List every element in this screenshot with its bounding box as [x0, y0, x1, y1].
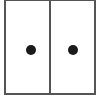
- right-knob-icon: [68, 45, 78, 55]
- double-door-cabinet-icon: [4, 0, 96, 95]
- right-door: [51, 1, 94, 93]
- left-door: [6, 1, 51, 93]
- left-knob-icon: [26, 45, 36, 55]
